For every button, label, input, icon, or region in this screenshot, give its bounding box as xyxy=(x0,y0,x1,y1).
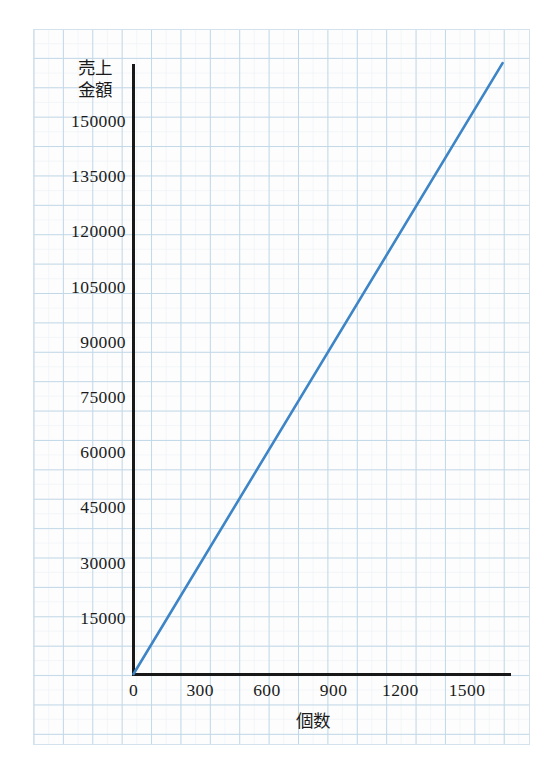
line-chart: 売上 金額 個数 1500030000450006000075000900001… xyxy=(0,0,554,777)
series-line-sales xyxy=(134,63,503,674)
series-layer xyxy=(0,0,554,777)
